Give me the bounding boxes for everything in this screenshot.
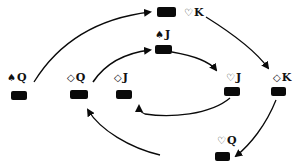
card-spade-queen — [11, 91, 27, 100]
arrow-hQ-to-dQ — [88, 110, 160, 155]
spade-icon: ♠ — [155, 29, 164, 40]
card-spade-jack — [155, 45, 172, 54]
diamond-icon: ◇ — [273, 72, 281, 83]
arrow-dK-to-hQ — [236, 100, 276, 156]
arrow-hJ-to-dJ — [139, 98, 230, 116]
card-cycle-diagram: ♠Q ◇Q ◇J ♠J ♡K ♡J ◇K ♡Q — [0, 0, 293, 166]
arrow-hK-to-dK — [206, 17, 268, 68]
card-diamond-jack — [116, 90, 132, 99]
card-diamond-king — [271, 87, 286, 96]
card-heart-jack — [224, 87, 240, 96]
heart-icon: ♡ — [217, 135, 226, 146]
node-label-diamond-king: ◇K — [273, 72, 291, 83]
diamond-icon: ◇ — [67, 72, 75, 83]
node-label-heart-queen: ♡Q — [217, 135, 237, 146]
arrows-layer — [0, 0, 293, 166]
card-heart-king — [157, 7, 176, 17]
arrow-sJ-to-hJ — [172, 52, 216, 70]
arrow-sQ-to-hK — [34, 12, 150, 82]
node-label-spade-queen: ♠Q — [7, 72, 27, 83]
node-label-heart-king: ♡K — [184, 7, 204, 18]
card-diamond-queen — [70, 90, 88, 99]
node-label-heart-jack: ♡J — [226, 72, 241, 83]
heart-icon: ♡ — [184, 7, 193, 18]
card-heart-queen — [215, 152, 230, 161]
node-label-spade-jack: ♠J — [155, 29, 170, 40]
node-label-diamond-queen: ◇Q — [67, 72, 85, 83]
node-label-diamond-jack: ◇J — [114, 72, 128, 83]
diamond-icon: ◇ — [114, 72, 122, 83]
heart-icon: ♡ — [226, 72, 235, 83]
spade-icon: ♠ — [7, 72, 16, 83]
